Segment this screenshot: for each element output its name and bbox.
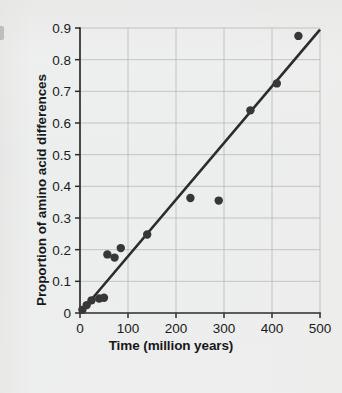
x-tick-label: 200 — [165, 321, 188, 336]
data-point — [103, 250, 111, 258]
data-point — [100, 294, 108, 302]
x-tick-label: 100 — [117, 321, 140, 336]
y-tick-label: 0.2 — [52, 242, 71, 257]
scatter-chart: Proportion of amino acid differences Tim… — [0, 0, 342, 360]
x-tick-label: 400 — [261, 321, 284, 336]
data-point — [117, 244, 125, 252]
x-tick-label: 0 — [76, 321, 84, 336]
x-tick-label: 300 — [213, 321, 236, 336]
data-point — [110, 253, 118, 261]
y-tick-label: 0.7 — [52, 84, 71, 99]
data-point — [246, 106, 254, 114]
data-point — [215, 196, 223, 204]
y-axis-title: Proportion of amino acid differences — [34, 74, 49, 306]
y-tick-label: 0.4 — [52, 179, 71, 194]
y-tick-label: 0.9 — [52, 21, 71, 36]
y-tick-label: 0.5 — [52, 147, 71, 162]
data-point — [294, 32, 302, 40]
y-tick-label: 0.8 — [52, 52, 71, 67]
x-tick-label: 500 — [309, 321, 332, 336]
x-axis-title: Time (million years) — [0, 338, 342, 353]
data-point — [87, 296, 95, 304]
y-tick-label: 0.6 — [52, 116, 71, 131]
data-points — [78, 32, 302, 314]
y-tick-label: 0.3 — [52, 211, 71, 226]
data-point — [143, 230, 151, 238]
data-point — [273, 79, 281, 87]
y-tick-label: 0 — [63, 306, 71, 321]
figure-page: Proportion of amino acid differences Tim… — [0, 0, 342, 393]
data-point — [186, 194, 194, 202]
regression-line — [80, 30, 320, 313]
y-tick-label: 0.1 — [52, 274, 71, 289]
